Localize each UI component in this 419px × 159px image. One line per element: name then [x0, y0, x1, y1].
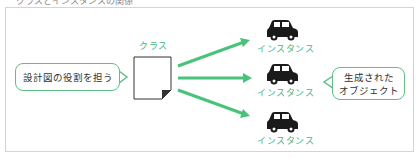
generated-object-line2: オブジェクト	[333, 84, 404, 97]
class-label: クラス	[139, 39, 168, 52]
car-icon	[267, 112, 298, 133]
role-bubble: 設計図の役割を担う	[15, 63, 120, 91]
document-icon	[134, 57, 171, 99]
role-bubble-text: 設計図の役割を担う	[23, 72, 113, 83]
arrows	[178, 38, 252, 118]
generated-object-line1: 生成された	[333, 71, 404, 84]
instance-label-2: インスタンス	[257, 86, 314, 99]
car-icon	[267, 64, 298, 85]
instance-label-3: インスタンス	[257, 134, 314, 147]
left-bubble-tail	[119, 71, 127, 83]
car-icon	[267, 20, 298, 41]
generated-object-bubble: 生成された オブジェクト	[332, 67, 405, 100]
instance-label-1: インスタンス	[257, 42, 314, 55]
